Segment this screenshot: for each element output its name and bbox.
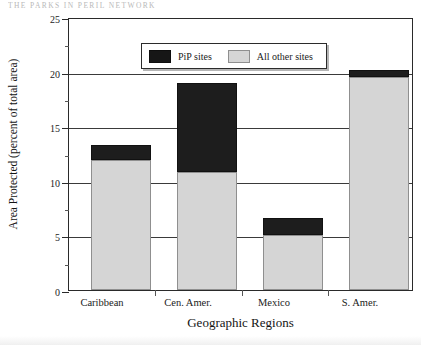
y-tick-label-15: 15 [50, 123, 60, 134]
bar-s-amer[interactable] [349, 70, 409, 291]
bar-segment-pip-sites[interactable] [177, 83, 237, 173]
legend-swatch-other-icon [228, 50, 250, 63]
y-axis-title: Area Protected (percent of total area) [7, 9, 19, 279]
legend-entry-all-other-sites[interactable]: All other sites [228, 44, 313, 68]
y-tick-major-15 [62, 128, 69, 129]
x-tick-label-caribbean: Caribbean [60, 297, 144, 308]
y-tick-major-0 [62, 292, 69, 293]
y-tick-minor-22-5 [65, 46, 69, 47]
legend-label-pip-sites: PiP sites [178, 51, 212, 62]
bar-caribbean[interactable] [91, 145, 151, 290]
y-tick-label-25: 25 [50, 14, 60, 25]
x-tick-label-s-amer: S. Amer. [318, 297, 402, 308]
y-tick-minor-2-5 [65, 265, 69, 266]
x-tick-1 [155, 290, 156, 296]
x-tick-label-mexico: Mexico [232, 297, 316, 308]
y-tick-minor-7-5 [65, 210, 69, 211]
bar-mexico[interactable] [263, 218, 323, 290]
bar-segment-all-other-sites[interactable] [91, 160, 151, 290]
plot-area: 25 20 15 10 5 0 [68, 18, 413, 291]
bar-segment-pip-sites[interactable] [91, 145, 151, 160]
bar-segment-all-other-sites[interactable] [349, 77, 409, 290]
y-tick-minor-17-5 [65, 101, 69, 102]
bar-segment-pip-sites[interactable] [349, 70, 409, 78]
y-tick-major-20 [62, 74, 69, 75]
legend-entry-pip-sites[interactable]: PiP sites [149, 44, 212, 68]
x-tick-2 [242, 290, 243, 296]
legend-label-all-other-sites: All other sites [257, 51, 313, 62]
legend-swatch-pip-icon [149, 50, 171, 63]
y-tick-major-10 [62, 183, 69, 184]
y-tick-minor-12-5 [65, 156, 69, 157]
y-tick-major-25 [62, 19, 69, 20]
bar-segment-pip-sites[interactable] [263, 218, 323, 236]
y-tick-label-20: 20 [50, 68, 60, 79]
x-tick-3 [328, 290, 329, 296]
bar-segment-all-other-sites[interactable] [263, 235, 323, 290]
y-tick-label-0: 0 [55, 287, 60, 298]
bar-segment-all-other-sites[interactable] [177, 172, 237, 290]
legend: PiP sites All other sites [141, 43, 327, 69]
x-tick-label-cen-amer: Cen. Amer. [146, 297, 230, 308]
y-tick-label-10: 10 [50, 177, 60, 188]
y-tick-label-5: 5 [55, 232, 60, 243]
bar-cen-amer[interactable] [177, 83, 237, 290]
figure-container: Area Protected (percent of total area) 2… [0, 0, 421, 345]
x-axis-title: Geographic Regions [68, 315, 413, 331]
y-tick-major-5 [62, 237, 69, 238]
